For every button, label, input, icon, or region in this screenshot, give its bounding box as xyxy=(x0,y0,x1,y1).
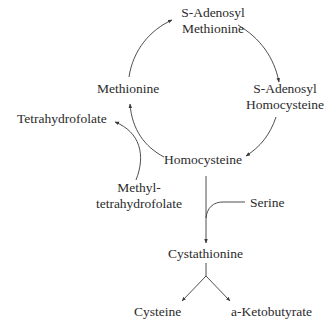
arrow-sah-to-homocysteine xyxy=(246,117,276,156)
node-cystathionine: Cystathionine xyxy=(168,246,243,262)
node-s-adenosyl-homocysteine: S-Adenosyl Homocysteine xyxy=(240,81,329,113)
node-label: tetrahydrofolate xyxy=(92,196,186,212)
pathway-diagram: S-Adenosyl Methionine S-Adenosyl Homocys… xyxy=(0,0,329,334)
arrow-methionine-to-sam xyxy=(129,20,172,77)
node-serine: Serine xyxy=(250,195,285,211)
node-s-adenosyl-methionine: S-Adenosyl Methionine xyxy=(168,5,258,37)
node-homocysteine: Homocysteine xyxy=(164,152,242,168)
node-label: Methyl- xyxy=(92,180,186,196)
arrow-to-ketobutyrate xyxy=(206,276,230,301)
arrow-to-cysteine xyxy=(182,276,206,301)
node-label: Homocysteine xyxy=(240,97,329,113)
node-a-ketobutyrate: a-Ketobutyrate xyxy=(231,304,312,320)
node-methionine: Methionine xyxy=(97,81,159,97)
node-label: S-Adenosyl xyxy=(240,81,329,97)
node-tetrahydrofolate: Tetrahydrofolate xyxy=(17,111,107,127)
node-cysteine: Cysteine xyxy=(134,304,181,320)
node-methyl-tetrahydrofolate: Methyl- tetrahydrofolate xyxy=(92,180,186,212)
arrow-serine-join xyxy=(206,202,245,218)
node-label: Methionine xyxy=(168,21,258,37)
node-label: S-Adenosyl xyxy=(168,5,258,21)
arrow-homocysteine-to-methionine xyxy=(130,104,164,157)
